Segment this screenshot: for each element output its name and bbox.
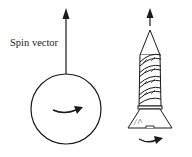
- screw-rotation-arrow-icon: [139, 136, 163, 144]
- left-spin-vector-arrow: [63, 8, 70, 74]
- spin-vector-diagram: [0, 0, 192, 157]
- ball-rotation-arrow-icon: [53, 106, 83, 114]
- spin-vector-label: Spin vector: [10, 37, 58, 48]
- right-spin-vector-arrow: [147, 8, 154, 26]
- screw-icon: [128, 30, 172, 128]
- spinning-ball: [31, 74, 101, 144]
